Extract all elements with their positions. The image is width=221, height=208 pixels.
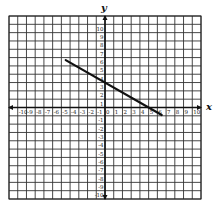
y-tick-label: -10 [95,192,104,198]
x-tick-label: 4 [141,109,145,115]
x-tick-label: 2 [123,109,127,115]
y-tick-label: -4 [98,142,104,148]
x-tick-label: -2 [89,109,94,115]
y-tick-label: 7 [100,51,104,57]
x-tick-label: -3 [80,109,86,115]
y-tick-label: -9 [98,184,104,190]
y-tick-label: 6 [100,59,104,65]
x-tick-label: -7 [45,109,51,115]
x-tick-label: -4 [71,109,77,115]
coordinate-plane: -10-9-8-7-6-5-4-3-2-1012345678910 -10-9-… [0,0,221,208]
y-tick-label: 2 [100,92,104,98]
y-tick-label: 10 [97,26,104,32]
x-tick-label: 1 [115,109,119,115]
y-tick-label: 3 [100,84,104,90]
x-tick-label: -6 [54,109,60,115]
x-axis-label: x [205,101,213,112]
y-tick-label: -3 [98,134,104,140]
x-tick-label: 3 [132,109,136,115]
y-tick-label: -1 [98,117,103,123]
x-tick-label: -9 [27,109,33,115]
x-tick-label: -5 [62,109,68,115]
x-tick-label: 7 [167,109,171,115]
y-axis-label: y [100,2,108,13]
y-tick-label: -7 [98,167,104,173]
x-tick-labels: -10-9-8-7-6-5-4-3-2-1012345678910 [19,109,201,115]
x-tick-label: -1 [97,109,102,115]
y-tick-label: 8 [100,42,104,48]
y-tick-label: -8 [98,176,104,182]
x-tick-label: 10 [193,109,200,115]
x-tick-label: 0 [106,109,110,115]
x-tick-label: 8 [176,109,180,115]
y-tick-label: -2 [98,126,103,132]
y-tick-label: 9 [100,34,104,40]
y-tick-label: -5 [98,151,104,157]
y-tick-label: 5 [100,67,104,73]
y-tick-label: 1 [100,101,104,107]
y-tick-label: -6 [98,159,104,165]
x-tick-label: 9 [185,109,189,115]
x-tick-label: -8 [36,109,42,115]
